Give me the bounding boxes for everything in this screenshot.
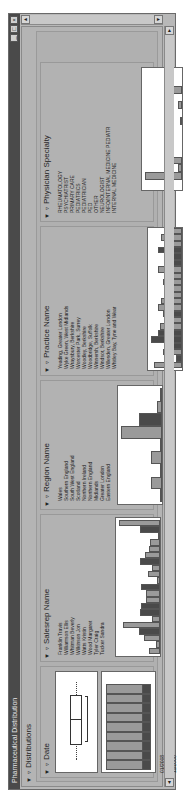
panel-title: Salesrep Name	[42, 589, 52, 644]
disclosure-triangle-icon[interactable]: ▼	[24, 777, 34, 783]
bar[interactable]	[160, 388, 162, 401]
bar[interactable]	[160, 489, 162, 502]
bar[interactable]	[158, 533, 160, 539]
bar[interactable]	[156, 641, 160, 647]
horizontal-scrollbar[interactable]: ◂ ▸	[164, 26, 174, 787]
bar[interactable]	[140, 558, 160, 564]
red-triangle-menu-icon[interactable]: ▿	[42, 361, 52, 364]
close-button[interactable]: ×	[10, 16, 18, 24]
panel-title: Physician Specialty	[42, 135, 52, 204]
panel-date: ▼ ▿ Date 01/200812/200811/2008	[40, 666, 154, 778]
bar[interactable]	[146, 590, 160, 596]
disclosure-triangle-icon[interactable]: ▼	[42, 769, 52, 775]
panel-title: Date	[42, 743, 52, 760]
category-label: Eastern England	[105, 383, 111, 501]
category-label: Tucker Sandra	[99, 519, 105, 655]
panel-header-region[interactable]: ▼ ▿ Region Name	[42, 443, 52, 507]
bar[interactable]	[157, 577, 160, 583]
bar[interactable]	[149, 546, 160, 552]
region-chart[interactable]	[117, 385, 163, 505]
bar[interactable]	[146, 597, 160, 603]
bar[interactable]	[123, 622, 160, 628]
red-triangle-menu-icon[interactable]: ▿	[42, 207, 52, 210]
salesrep-labels: Franklin TravisWilliamson EllisWhitman B…	[57, 519, 109, 655]
bar[interactable]	[121, 426, 162, 439]
outline-title: Distributions	[24, 724, 34, 768]
scroll-left-button[interactable]: ◂	[165, 778, 174, 787]
bar[interactable]	[145, 552, 160, 558]
bar[interactable]	[141, 584, 160, 590]
rotated-stage: Pharmaceutical Distribution _ □ × ▼ ▿ Di…	[0, 0, 186, 803]
bar[interactable]	[141, 603, 160, 609]
disclosure-triangle-icon[interactable]: ▼	[42, 501, 52, 507]
window-title: Pharmaceutical Distribution	[11, 698, 18, 783]
specialty-chart[interactable]	[141, 67, 183, 191]
panel-title: Region Name	[42, 443, 52, 492]
panel-region-name: ▼ ▿ Region Name WalesSouthern EnglandSou…	[40, 380, 154, 510]
red-triangle-menu-icon[interactable]: ▿	[42, 763, 52, 766]
disclosure-triangle-icon[interactable]: ▼	[42, 653, 52, 659]
maximize-button[interactable]: □	[10, 25, 18, 33]
histogram-bar-selected	[142, 722, 151, 732]
panel-header-date[interactable]: ▼ ▿ Date	[42, 743, 52, 775]
boxplot-box	[70, 695, 82, 745]
histogram-bar-selected	[142, 760, 151, 770]
panel-physician-specialty: ▼ ▿ Physician Specialty RHEUMATOLOGYPSYC…	[40, 62, 154, 222]
panel-practice-name: ▼ ▿ Practice Name Yeading, Greater Londo…	[40, 226, 154, 376]
bar[interactable]	[139, 413, 162, 426]
bar[interactable]	[178, 164, 182, 172]
scroll-down-button[interactable]: ▾	[154, 15, 163, 24]
panel-title: Practice Name	[42, 306, 52, 358]
bar[interactable]	[151, 477, 162, 490]
date-histogram[interactable]	[101, 671, 156, 773]
practice-labels: Yeading, Greater LondonWyke Green, West …	[57, 229, 121, 369]
histogram-bar-selected	[142, 684, 151, 694]
red-triangle-menu-icon[interactable]: ▿	[42, 647, 52, 650]
bar[interactable]	[152, 616, 160, 622]
category-label: Whitley Bay, Tyne and Wear	[111, 229, 117, 369]
bar[interactable]	[157, 401, 162, 414]
bar[interactable]	[139, 628, 160, 634]
histogram-bar-selected	[142, 732, 151, 742]
salesrep-chart[interactable]	[115, 517, 161, 657]
panel-header-practice[interactable]: ▼ ▿ Practice Name	[42, 306, 52, 373]
bar[interactable]	[176, 355, 182, 361]
bar[interactable]	[140, 526, 160, 532]
red-triangle-menu-icon[interactable]: ▿	[42, 495, 52, 498]
bar[interactable]	[178, 101, 182, 109]
panel-header-specialty[interactable]: ▼ ▿ Physician Specialty	[42, 135, 52, 219]
histogram-bar-selected	[142, 713, 151, 723]
minimize-button[interactable]: _	[10, 34, 18, 42]
bar[interactable]	[140, 609, 160, 615]
distributions-outline-header[interactable]: ▼ ▿ Distributions	[24, 724, 34, 783]
bar[interactable]	[160, 439, 162, 452]
bar[interactable]	[180, 117, 182, 125]
region-labels: WalesSouthern EnglandSouth West EnglandS…	[57, 383, 113, 501]
bar[interactable]	[150, 539, 160, 545]
report-body: ▼ ▿ Distributions ▼ ▿ Date	[21, 26, 163, 787]
histogram-bar-selected	[142, 703, 151, 713]
disclosure-triangle-icon[interactable]: ▼	[42, 213, 52, 219]
distributions-area: ▼ ▿ Date 01/200812/200811/2008	[36, 31, 158, 782]
red-triangle-menu-icon[interactable]: ▿	[24, 771, 34, 774]
bar[interactable]	[144, 635, 160, 641]
histogram-bar-selected	[142, 741, 151, 751]
scroll-up-button[interactable]: ▴	[21, 15, 30, 24]
title-bar[interactable]: Pharmaceutical Distribution _ □ ×	[9, 14, 20, 789]
panel-header-salesrep[interactable]: ▼ ▿ Salesrep Name	[42, 589, 52, 659]
histogram-bar-selected	[142, 751, 151, 761]
bar[interactable]	[119, 520, 160, 526]
vertical-scrollbar[interactable]: ▴ ▾	[21, 15, 163, 25]
bar[interactable]	[152, 565, 160, 571]
scroll-right-button[interactable]: ▸	[165, 26, 174, 35]
panel-salesrep-name: ▼ ▿ Salesrep Name Franklin TravisWilliam…	[40, 514, 154, 662]
bar[interactable]	[151, 451, 162, 464]
histogram-bar-selected	[142, 694, 151, 704]
bar[interactable]	[149, 648, 160, 654]
bar[interactable]	[160, 464, 162, 477]
disclosure-triangle-icon[interactable]: ▼	[42, 367, 52, 373]
window-controls: _ □ ×	[10, 16, 18, 42]
report-window: Pharmaceutical Distribution _ □ × ▼ ▿ Di…	[8, 13, 176, 790]
bar[interactable]	[148, 571, 160, 577]
boxplot[interactable]	[55, 671, 98, 773]
